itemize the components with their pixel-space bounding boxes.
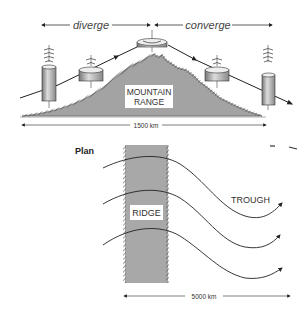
mountain-label-line1: MOUNTAIN: [127, 87, 172, 97]
converge-label: converge: [185, 19, 230, 31]
air-column-tall-left: [42, 45, 56, 108]
plan-title: Plan: [75, 146, 94, 156]
diverge-label: diverge: [73, 19, 109, 31]
scale-bar-1500km: 1500 km: [22, 122, 266, 129]
air-column-flat-top: [137, 30, 167, 52]
profile-view: diverge converge MOUNTAIN RANGE: [20, 19, 292, 129]
trough-label: TROUGH: [231, 195, 270, 205]
orographic-flow-diagram: diverge converge MOUNTAIN RANGE: [0, 0, 308, 316]
air-column-tall-right: [262, 45, 275, 110]
scale-bar-5000km: 5000 km: [124, 293, 290, 300]
plan-view: Plan RIDGE TROUGH 5000 km: [75, 145, 297, 300]
mountain-label-line2: RANGE: [134, 97, 165, 107]
scale-label-1500km: 1500 km: [134, 122, 159, 129]
diverge-arrow: diverge: [42, 19, 150, 31]
air-column-medium-right: [205, 55, 229, 88]
scale-label-5000km: 5000 km: [192, 293, 217, 300]
ridge-label: RIDGE: [132, 208, 161, 218]
converge-arrow: converge: [155, 19, 272, 31]
air-column-medium-left: [79, 55, 103, 88]
stray-marks: [270, 146, 297, 149]
ridge-band: RIDGE: [123, 145, 169, 283]
